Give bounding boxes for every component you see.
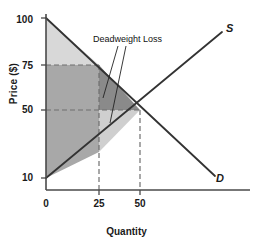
y-tick-label-10: 10	[3, 172, 33, 183]
demand-curve-label: D	[216, 172, 224, 184]
y-tick-label-75: 75	[3, 60, 33, 71]
supply-curve-label: S	[226, 22, 233, 34]
x-axis-title: Quantity	[0, 226, 253, 237]
y-tick-label-100: 100	[3, 14, 33, 25]
y-tick-label-50: 50	[3, 104, 33, 115]
deadweight-loss-chart: Price ($) Quantity 100 75 50 10 0 25 50 …	[0, 0, 253, 244]
deadweight-loss-annotation: Deadweight Loss	[93, 34, 162, 44]
x-tick-label-25: 25	[84, 198, 114, 209]
region-producer-surplus	[46, 110, 99, 178]
x-tick-label-50: 50	[125, 198, 155, 209]
x-tick-label-0: 0	[31, 198, 61, 209]
region-transfer-rectangle	[46, 65, 99, 110]
